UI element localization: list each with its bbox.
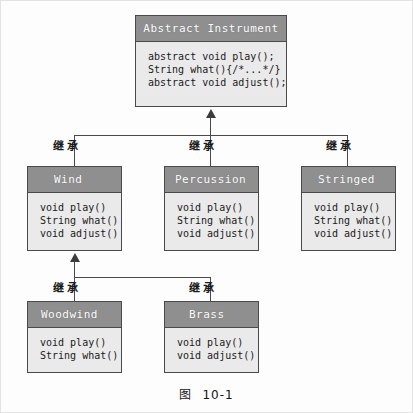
class-member: void adjust() — [177, 349, 258, 362]
generalization-bus-level3 — [74, 277, 211, 278]
class-member: void play() — [177, 201, 258, 214]
class-name-woodwind: Woodwind — [28, 302, 121, 328]
class-box-woodwind: Woodwind void play() String what() — [27, 301, 122, 373]
class-member: void play() — [40, 336, 121, 349]
class-member: String what() — [314, 214, 395, 227]
class-member: String what() — [40, 349, 121, 362]
class-members-percussion: void play() String what() void adjust() — [165, 193, 258, 248]
class-name-brass: Brass — [165, 302, 258, 328]
edge-label-inherit-stringed: 继承 — [326, 137, 354, 153]
class-member: void adjust() — [177, 227, 258, 240]
edge-label-inherit-wind: 继承 — [53, 137, 81, 153]
class-member: String what() — [177, 214, 258, 227]
class-box-brass: Brass void play() void adjust() — [164, 301, 259, 373]
class-member: void adjust() — [40, 227, 121, 240]
class-members-brass: void play() void adjust() — [165, 328, 258, 370]
generalization-arrowhead-wind — [70, 253, 80, 262]
figure-caption-label: 图 — [179, 388, 192, 402]
edge-label-inherit-woodwind: 继承 — [53, 279, 81, 295]
edge-label-inherit-brass: 继承 — [189, 279, 217, 295]
class-member: void play() — [314, 201, 395, 214]
class-member: String what(){/*...*/} — [148, 63, 286, 76]
class-member: void adjust() — [314, 227, 395, 240]
edge-label-inherit-percussion: 继承 — [189, 137, 217, 153]
class-member: abstract void play(); — [148, 50, 286, 63]
class-box-wind: Wind void play() String what() void adju… — [27, 166, 122, 251]
class-member: abstract void adjust(); — [148, 76, 286, 89]
class-box-stringed: Stringed void play() String what() void … — [301, 166, 396, 251]
class-members-abstract-instrument: abstract void play(); String what(){/*..… — [136, 42, 286, 97]
class-name-wind: Wind — [28, 167, 121, 193]
generalization-arrowhead-root — [206, 109, 216, 118]
figure-caption-number: 10-1 — [202, 388, 233, 402]
class-members-stringed: void play() String what() void adjust() — [302, 193, 395, 248]
class-box-abstract-instrument: Abstract Instrument abstract void play()… — [135, 15, 287, 107]
diagram-canvas: Abstract Instrument abstract void play()… — [0, 0, 413, 413]
class-member: void play() — [40, 201, 121, 214]
class-member: void play() — [177, 336, 258, 349]
class-name-stringed: Stringed — [302, 167, 395, 193]
class-name-percussion: Percussion — [165, 167, 258, 193]
class-members-wind: void play() String what() void adjust() — [28, 193, 121, 248]
figure-caption: 图10-1 — [1, 385, 412, 402]
class-name-abstract-instrument: Abstract Instrument — [136, 16, 286, 42]
class-member: String what() — [40, 214, 121, 227]
class-members-woodwind: void play() String what() — [28, 328, 121, 370]
class-box-percussion: Percussion void play() String what() voi… — [164, 166, 259, 251]
